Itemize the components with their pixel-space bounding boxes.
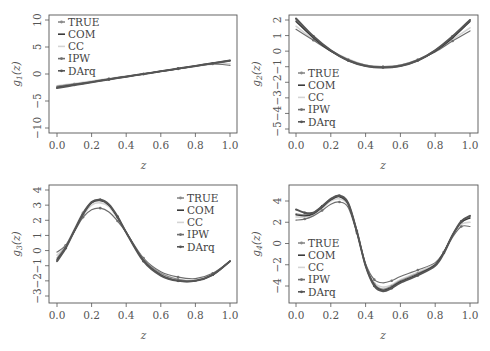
legend-label: TRUE: [68, 16, 99, 28]
y-tick-label: 2: [271, 219, 283, 226]
legend-label: IPW: [187, 228, 209, 240]
legend-item-com: COM: [58, 28, 96, 40]
figure: 0.00.20.40.60.81.0−10−50510zg1(z)TRUECOM…: [0, 0, 490, 351]
y-axis-label: g1(z): [10, 61, 24, 86]
legend-item-cc: CC: [298, 261, 324, 273]
data-point-ipw: [373, 278, 376, 281]
legend-item-cc: CC: [58, 40, 84, 52]
x-tick-label: 0.4: [118, 309, 135, 321]
x-tick-label: 0.0: [288, 139, 305, 151]
legend-item-true: TRUE: [177, 192, 218, 204]
data-point-ipw: [303, 218, 306, 221]
y-tick-label: 0: [31, 71, 43, 78]
x-tick-label: 0.2: [83, 139, 100, 151]
legend-marker: [300, 72, 303, 75]
data-point-darq: [99, 199, 102, 202]
data-point-ipw: [390, 279, 393, 282]
x-tick-label: 0.8: [427, 309, 444, 321]
panel-3: 0.00.20.40.60.81.0−3−2−101234zg3(z)TRUEC…: [10, 185, 238, 341]
data-point-darq: [108, 78, 111, 81]
legend-label: IPW: [308, 273, 330, 285]
panel-2: 0.00.20.40.60.81.0−5−4−3−2−1012zg2(z)TRU…: [250, 15, 478, 171]
x-axis-label: z: [379, 159, 386, 171]
data-point-darq: [338, 194, 341, 197]
x-tick-label: 1.0: [462, 139, 479, 151]
legend-marker: [179, 197, 182, 200]
y-tick-label: 4: [271, 197, 283, 204]
x-tick-label: 0.0: [49, 309, 66, 321]
y-tick-label: 0: [31, 247, 43, 254]
x-tick-label: 1.0: [222, 309, 239, 321]
legend-label: IPW: [308, 103, 330, 115]
x-tick-label: 0.6: [152, 309, 169, 321]
legend-marker: [60, 21, 63, 24]
legend-label: COM: [68, 28, 96, 40]
y-axis-label: g4(z): [250, 231, 264, 256]
legend-label: IPW: [68, 52, 90, 64]
y-tick-label: 3: [31, 202, 43, 209]
legend-item-true: TRUE: [298, 67, 339, 79]
legend-item-ipw: IPW: [177, 228, 209, 240]
legend-marker: [179, 245, 182, 248]
y-tick-label: −1: [271, 59, 283, 74]
data-point-darq: [451, 35, 454, 38]
y-tick-label: 2: [271, 17, 283, 24]
legend-item-com: COM: [298, 249, 336, 261]
x-tick-label: 0.2: [83, 309, 100, 321]
data-point-darq: [347, 59, 350, 62]
legend-label: TRUE: [308, 67, 339, 79]
legend-label: TRUE: [308, 237, 339, 249]
data-point-ipw: [116, 220, 119, 223]
data-point-darq: [116, 215, 119, 218]
data-point-darq: [321, 205, 324, 208]
data-point-darq: [417, 59, 420, 62]
legend-item-ipw: IPW: [298, 273, 330, 285]
legend-marker: [300, 290, 303, 293]
legend-label: DArq: [68, 65, 96, 77]
x-tick-label: 0.6: [152, 139, 169, 151]
data-point-darq: [417, 274, 420, 277]
y-tick-label: 1: [271, 32, 283, 39]
panel-4: 0.00.20.40.60.81.0−4−2024zg4(z)TRUECOMCC…: [250, 185, 478, 341]
data-point-darq: [82, 213, 85, 216]
x-axis-label: z: [140, 329, 147, 341]
y-tick-label: −5: [31, 93, 43, 108]
data-point-darq: [142, 260, 145, 263]
y-tick-label: −2: [271, 257, 283, 272]
legend-marker: [60, 69, 63, 72]
legend-marker: [300, 108, 303, 111]
x-tick-label: 1.0: [222, 139, 239, 151]
data-point-darq: [390, 287, 393, 290]
legend: TRUECOMCCIPWDArq: [177, 192, 218, 253]
legend-marker: [300, 242, 303, 245]
x-tick-label: 0.0: [288, 309, 305, 321]
data-point-darq: [460, 220, 463, 223]
panel-1: 0.00.20.40.60.81.0−10−50510zg1(z)TRUECOM…: [10, 13, 238, 171]
legend-marker: [300, 120, 303, 123]
data-point-darq: [312, 35, 315, 38]
legend-item-darq: DArq: [177, 241, 215, 253]
x-tick-label: 0.4: [118, 139, 135, 151]
data-point-darq: [443, 252, 446, 255]
data-point-ipw: [417, 269, 420, 272]
data-point-darq: [356, 231, 359, 234]
legend-marker: [300, 278, 303, 281]
series-line-ipw: [296, 29, 470, 66]
x-tick-label: 0.8: [427, 139, 444, 151]
data-point-darq: [303, 211, 306, 214]
legend-label: COM: [308, 79, 336, 91]
legend-label: CC: [308, 91, 324, 103]
y-tick-label: 1: [31, 232, 43, 239]
legend: TRUECOMCCIPWDArq: [298, 237, 339, 298]
y-axis-label: g3(z): [10, 231, 24, 256]
legend-item-cc: CC: [177, 216, 203, 228]
series-line-darq: [296, 18, 470, 67]
legend-label: COM: [187, 204, 215, 216]
y-tick-label: 0: [271, 240, 283, 247]
legend-label: DArq: [308, 116, 336, 128]
data-point-ipw: [177, 276, 180, 279]
x-tick-label: 0.8: [187, 309, 204, 321]
x-axis-label: z: [140, 159, 147, 171]
data-point-darq: [64, 247, 67, 250]
legend-label: COM: [308, 249, 336, 261]
